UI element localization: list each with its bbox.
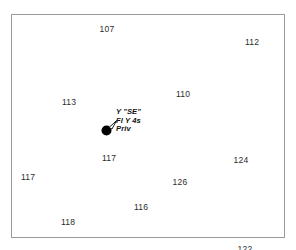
depth-sounding: 117 xyxy=(102,154,116,163)
depth-sounding: 117 xyxy=(21,173,35,182)
depth-sounding: 107 xyxy=(100,25,115,34)
depth-sounding: 116 xyxy=(134,203,148,212)
depth-sounding: 113 xyxy=(62,98,76,107)
depth-sounding-clipped: 122 xyxy=(238,245,253,250)
depth-sounding: 112 xyxy=(245,38,259,47)
depth-sounding: 124 xyxy=(234,156,249,165)
buoy-label: Y "SE" Fl Y 4s Priv xyxy=(116,108,141,134)
depth-sounding: 110 xyxy=(176,90,190,99)
buoy-label-line-3: Priv xyxy=(116,125,141,134)
depth-sounding: 118 xyxy=(61,218,75,227)
nautical-chart-excerpt: 107 112 110 113 117 124 117 126 116 118 … xyxy=(0,0,296,250)
depth-sounding: 126 xyxy=(173,178,188,187)
